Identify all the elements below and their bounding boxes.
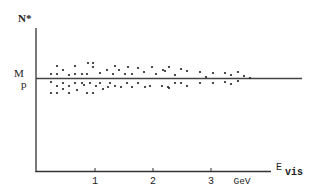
data-point: [212, 82, 214, 84]
data-point: [76, 89, 78, 91]
data-point: [83, 84, 85, 86]
data-point: [164, 70, 166, 72]
data-point: [92, 66, 94, 68]
data-point: [186, 85, 188, 87]
data-point: [131, 86, 133, 88]
data-point: [249, 77, 251, 79]
x-unit-label: GeV: [233, 176, 250, 187]
data-point: [230, 74, 232, 76]
data-point: [180, 68, 182, 70]
x-tick-label-2: 2: [150, 176, 156, 187]
data-point: [205, 76, 207, 78]
data-point: [89, 82, 91, 84]
data-point: [56, 65, 58, 67]
data-point: [168, 87, 170, 89]
mp-label-sub: p: [21, 78, 27, 90]
data-point: [137, 67, 139, 69]
data-point: [174, 74, 176, 76]
data-point: [62, 69, 64, 71]
data-point: [87, 62, 89, 64]
data-point: [230, 83, 232, 85]
data-point: [124, 73, 126, 75]
data-point: [224, 72, 226, 74]
data-point: [62, 82, 64, 84]
data-point: [114, 85, 116, 87]
data-point: [162, 69, 164, 71]
data-point: [50, 92, 52, 94]
x-axis-title-sub: vis: [285, 167, 303, 178]
data-point: [95, 85, 97, 87]
data-point: [127, 66, 129, 68]
data-point: [243, 75, 245, 77]
data-point: [137, 82, 139, 84]
data-point: [180, 82, 182, 84]
data-point: [118, 69, 120, 71]
data-point: [68, 92, 70, 94]
data-point: [199, 82, 201, 84]
data-point: [161, 85, 163, 87]
data-point: [131, 73, 133, 75]
data-point: [174, 82, 176, 84]
data-point: [62, 88, 64, 90]
data-point: [114, 65, 116, 67]
data-point: [74, 82, 76, 84]
data-point: [126, 82, 128, 84]
y-axis-title: N*: [18, 12, 32, 24]
data-point: [92, 92, 94, 94]
data-point: [50, 81, 52, 83]
data-point: [143, 71, 145, 73]
data-point: [86, 73, 88, 75]
data-point: [112, 73, 114, 75]
data-point: [102, 88, 104, 90]
data-point: [237, 80, 239, 82]
data-point: [106, 69, 108, 71]
scatter-chart: 1 2 3 GeV N* E vis M p: [0, 0, 323, 192]
data-point: [74, 73, 76, 75]
data-point: [186, 70, 188, 72]
data-point: [81, 73, 83, 75]
data-point: [68, 74, 70, 76]
data-point: [120, 86, 122, 88]
data-point: [99, 72, 101, 74]
x-tick-label-3: 3: [208, 176, 214, 187]
data-point: [212, 72, 214, 74]
data-point: [99, 82, 101, 84]
data-point: [107, 86, 109, 88]
data-point: [149, 85, 151, 87]
data-point: [144, 86, 146, 88]
x-axis-title-main: E: [276, 162, 282, 173]
data-point: [56, 73, 58, 75]
data-point: [68, 85, 70, 87]
data-point: [168, 66, 170, 68]
data-point: [92, 62, 94, 64]
x-tick-label-1: 1: [92, 176, 98, 187]
data-point: [237, 71, 239, 73]
data-point: [56, 85, 58, 87]
data-point: [86, 92, 88, 94]
data-point: [155, 73, 157, 75]
data-point: [81, 82, 83, 84]
data-point: [224, 81, 226, 83]
data-point: [56, 92, 58, 94]
data-point: [109, 82, 111, 84]
data-point: [74, 65, 76, 67]
data-point: [151, 66, 153, 68]
data-point: [199, 71, 201, 73]
data-point: [50, 73, 52, 75]
